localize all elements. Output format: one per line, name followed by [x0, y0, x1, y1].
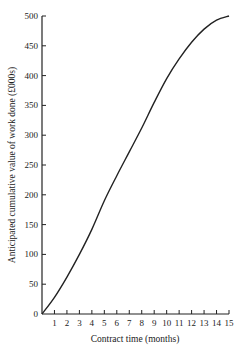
x-tick-label: 9 — [152, 318, 157, 328]
x-tick-label: 4 — [90, 318, 95, 328]
x-tick-label: 6 — [115, 318, 120, 328]
x-axis-label: Contract time (months) — [91, 334, 180, 344]
x-tick-label: 13 — [200, 318, 210, 328]
x-tick-label: 11 — [175, 318, 184, 328]
line-chart: 0501001502002503003504004505001234567891… — [0, 0, 242, 350]
x-tick-label: 3 — [77, 318, 82, 328]
x-tick-label: 14 — [212, 318, 222, 328]
y-tick-label: 250 — [25, 160, 39, 170]
y-tick-label: 300 — [25, 130, 39, 140]
y-tick-label: 100 — [25, 249, 39, 259]
x-tick-label: 10 — [162, 318, 172, 328]
x-tick-label: 15 — [225, 318, 235, 328]
y-tick-label: 500 — [25, 11, 39, 21]
x-tick-label: 12 — [187, 318, 196, 328]
y-tick-label: 0 — [34, 309, 39, 319]
x-tick-label: 2 — [65, 318, 70, 328]
y-tick-label: 450 — [25, 41, 39, 51]
y-tick-label: 150 — [25, 220, 39, 230]
x-tick-label: 8 — [139, 318, 144, 328]
y-axis-label: Anticipated cumulative value of work don… — [7, 67, 17, 263]
data-line — [42, 16, 229, 314]
y-tick-label: 350 — [25, 100, 39, 110]
y-tick-label: 400 — [25, 71, 39, 81]
y-tick-label: 200 — [25, 190, 39, 200]
axes — [42, 16, 229, 314]
ticks: 0501001502002503003504004505001234567891… — [25, 11, 235, 328]
x-tick-label: 1 — [52, 318, 57, 328]
y-tick-label: 50 — [29, 279, 39, 289]
x-tick-label: 7 — [127, 318, 132, 328]
x-tick-label: 5 — [102, 318, 107, 328]
